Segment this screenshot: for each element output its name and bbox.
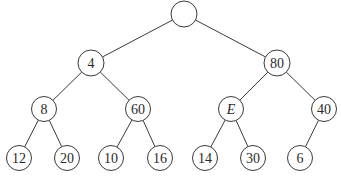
edges-group bbox=[25, 20, 319, 147]
node-label: 40 bbox=[317, 102, 331, 117]
tree-node-root bbox=[171, 1, 197, 27]
node-label: 16 bbox=[153, 151, 167, 166]
binary-tree-diagram: 480860E401220101614306 bbox=[0, 0, 341, 185]
node-label: 10 bbox=[104, 151, 118, 166]
edge-n60-n10 bbox=[117, 120, 132, 147]
tree-node-n60: 60 bbox=[126, 97, 151, 122]
tree-node-n4: 4 bbox=[78, 50, 104, 76]
tree-node-n8: 8 bbox=[32, 97, 57, 122]
tree-node-n14: 14 bbox=[193, 146, 218, 171]
edge-n4-n60 bbox=[100, 72, 129, 100]
tree-node-n40: 40 bbox=[312, 97, 337, 122]
node-label: 14 bbox=[198, 151, 212, 166]
edge-root-n4 bbox=[103, 20, 173, 57]
edge-nE-n14 bbox=[211, 120, 225, 147]
tree-node-n6: 6 bbox=[288, 146, 313, 171]
nodes-group: 480860E401220101614306 bbox=[7, 1, 337, 171]
tree-node-n30: 30 bbox=[241, 146, 266, 171]
node-label: 4 bbox=[88, 56, 95, 71]
edge-nE-n30 bbox=[236, 120, 248, 146]
edge-n4-n8 bbox=[53, 72, 82, 100]
node-circle bbox=[171, 1, 197, 27]
tree-node-n10: 10 bbox=[99, 146, 124, 171]
tree-node-n12: 12 bbox=[7, 146, 32, 171]
edge-n80-n40 bbox=[286, 72, 315, 100]
edge-n60-n16 bbox=[143, 120, 155, 146]
node-label: 8 bbox=[41, 102, 48, 117]
tree-node-n16: 16 bbox=[148, 146, 173, 171]
edge-n40-n6 bbox=[305, 120, 318, 147]
tree-node-n80: 80 bbox=[264, 50, 290, 76]
edge-n80-nE bbox=[240, 72, 268, 100]
tree-node-nE: E bbox=[219, 97, 244, 122]
node-label: 30 bbox=[246, 151, 260, 166]
tree-node-n20: 20 bbox=[55, 146, 80, 171]
node-label: E bbox=[226, 102, 236, 117]
node-label: 12 bbox=[12, 151, 26, 166]
edge-root-n80 bbox=[196, 20, 266, 57]
node-label: 20 bbox=[60, 151, 74, 166]
node-label: 80 bbox=[270, 56, 284, 71]
edge-n8-n20 bbox=[49, 120, 61, 146]
node-label: 60 bbox=[131, 102, 145, 117]
node-label: 6 bbox=[297, 151, 304, 166]
edge-n8-n12 bbox=[25, 120, 39, 147]
